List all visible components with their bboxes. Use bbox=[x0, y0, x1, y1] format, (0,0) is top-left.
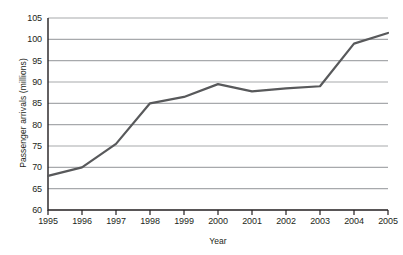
gridlines bbox=[48, 18, 388, 189]
data-series-line bbox=[48, 33, 388, 176]
x-axis-tick-marks bbox=[48, 210, 388, 215]
axis-frame bbox=[48, 18, 388, 210]
